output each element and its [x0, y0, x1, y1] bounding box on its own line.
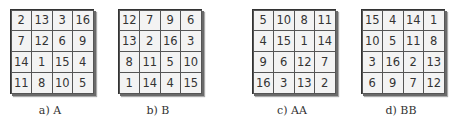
panel-caption: b) B	[108, 104, 208, 117]
grid-cell: 14	[314, 30, 336, 52]
grid-cell: 9	[72, 30, 94, 52]
grid-cell: 16	[253, 72, 275, 94]
number-grid: 12796132163811510114415	[118, 9, 202, 94]
grid-cell: 13	[294, 72, 316, 94]
grid-cell: 4	[160, 72, 182, 94]
panel-caption: d) BB	[351, 104, 451, 117]
grid-cell: 6	[52, 30, 74, 52]
grid-cell: 13	[119, 30, 141, 52]
grid-cell: 4	[72, 51, 94, 73]
grid-cell: 11	[403, 30, 425, 52]
grid-cell: 12	[119, 10, 141, 32]
grid-cell: 6	[362, 72, 384, 94]
grid-cell: 14	[403, 10, 425, 32]
grid-cell: 9	[253, 51, 275, 73]
grid-cell: 1	[119, 72, 141, 94]
panel-caption: a) A	[0, 104, 100, 117]
grid-cell: 8	[31, 72, 53, 94]
grid-cell: 7	[403, 72, 425, 94]
grid-cell: 5	[160, 51, 182, 73]
grid-cell: 1	[294, 30, 316, 52]
grid-cell: 10	[273, 10, 295, 32]
grid-cell: 13	[423, 51, 445, 73]
grid-cell: 9	[382, 72, 404, 94]
grid-cell: 7	[11, 30, 33, 52]
grid-cell: 3	[180, 30, 202, 52]
grid-cell: 14	[11, 51, 33, 73]
number-grid: 51081141511496127163132	[252, 9, 336, 94]
grid-cell: 12	[423, 72, 445, 94]
grid-cell: 11	[11, 72, 33, 94]
grid-cell: 15	[180, 72, 202, 94]
grid-cell: 8	[294, 10, 316, 32]
grid-cell: 11	[139, 51, 161, 73]
grid-cell: 6	[273, 51, 295, 73]
number-grid: 15414110511831621369712	[361, 9, 445, 94]
grid-cell: 15	[362, 10, 384, 32]
grid-cell: 15	[52, 51, 74, 73]
grid-cell: 3	[362, 51, 384, 73]
grid-cell: 1	[31, 51, 53, 73]
grid-cell: 5	[72, 72, 94, 94]
panel-caption: c) AA	[242, 104, 342, 117]
number-grid: 21331671269141154118105	[10, 9, 94, 94]
grid-cell: 10	[180, 51, 202, 73]
grid-cell: 10	[52, 72, 74, 94]
grid-cell: 15	[273, 30, 295, 52]
grid-cell: 2	[403, 51, 425, 73]
grid-cell: 16	[382, 51, 404, 73]
grid-cell: 6	[180, 10, 202, 32]
grid-cell: 14	[139, 72, 161, 94]
grid-cell: 3	[273, 72, 295, 94]
grid-cell: 2	[11, 10, 33, 32]
grid-cell: 8	[119, 51, 141, 73]
grid-cell: 5	[382, 30, 404, 52]
grid-cell: 4	[253, 30, 275, 52]
grid-cell: 16	[72, 10, 94, 32]
grid-cell: 10	[362, 30, 384, 52]
grid-cell: 12	[31, 30, 53, 52]
grid-cell: 5	[253, 10, 275, 32]
grid-cell: 9	[160, 10, 182, 32]
grid-cell: 13	[31, 10, 53, 32]
grid-cell: 8	[423, 30, 445, 52]
grid-cell: 1	[423, 10, 445, 32]
grid-cell: 2	[314, 72, 336, 94]
grid-cell: 11	[314, 10, 336, 32]
grid-cell: 2	[139, 30, 161, 52]
grid-cell: 4	[382, 10, 404, 32]
grid-cell: 16	[160, 30, 182, 52]
grid-cell: 7	[139, 10, 161, 32]
grid-cell: 12	[294, 51, 316, 73]
grid-cell: 7	[314, 51, 336, 73]
grid-cell: 3	[52, 10, 74, 32]
